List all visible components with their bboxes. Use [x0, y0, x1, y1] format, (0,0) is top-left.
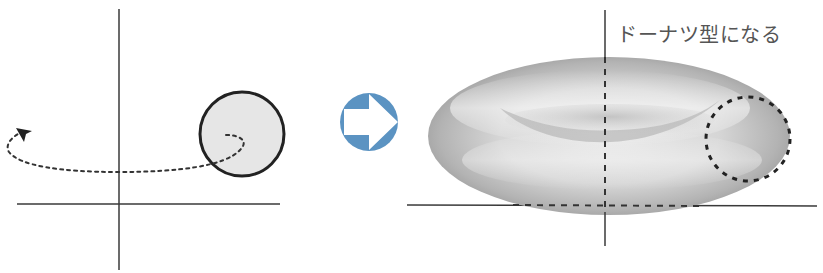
- rotation-arrowhead-icon: [16, 128, 32, 142]
- right-arrow-icon: [340, 93, 398, 151]
- cross-section-circle: [200, 92, 284, 176]
- torus-annotation-label: ドーナツ型になる: [617, 19, 781, 48]
- left-panel: [8, 9, 284, 270]
- torus: [428, 57, 790, 215]
